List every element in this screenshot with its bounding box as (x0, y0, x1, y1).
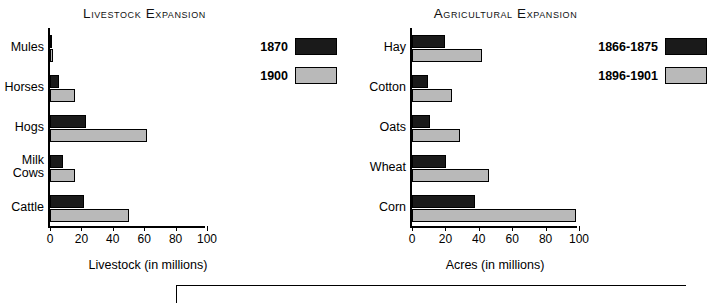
bar-agriculture-1 (412, 169, 489, 182)
legend-swatch-light (665, 67, 707, 84)
legend-label: 1900 (252, 69, 288, 83)
axis-tick-label: 0 (397, 232, 427, 246)
category-label: Hogs (0, 121, 44, 134)
bar-agriculture-1 (412, 89, 452, 102)
axis-tick (479, 226, 480, 231)
axis-tick (412, 226, 413, 231)
bar-livestock-1 (50, 89, 75, 102)
axis-tick (113, 226, 114, 231)
axis-tick-label: 40 (98, 232, 128, 246)
legend-item: 1900 (252, 67, 337, 84)
agriculture-plot-area: HayCottonOatsWheatCorn020406080100 (410, 28, 577, 228)
bar-agriculture-0 (412, 195, 475, 208)
agriculture-axis-caption: Acres (in millions) (405, 258, 585, 272)
category-label: Corn (342, 201, 406, 214)
livestock-chart-panel: Livestock Expansion MulesHorsesHogsMilk … (0, 0, 345, 307)
category-label: Cotton (342, 81, 406, 94)
bar-livestock-0 (50, 75, 59, 88)
axis-tick-label: 0 (35, 232, 65, 246)
axis-tick-label: 20 (430, 232, 460, 246)
axis-tick (546, 226, 547, 231)
footer-rule (176, 285, 686, 286)
legend-swatch-light (295, 67, 337, 84)
legend-label: 1896-1901 (590, 69, 658, 83)
axis-tick-label: 60 (497, 232, 527, 246)
bar-agriculture-0 (412, 115, 430, 128)
category-label: Hay (342, 41, 406, 54)
axis-tick (176, 226, 177, 231)
axis-tick-label: 20 (66, 232, 96, 246)
category-label: Horses (0, 81, 44, 94)
bar-agriculture-0 (412, 35, 445, 48)
category-label: Milk Cows (0, 154, 44, 180)
bar-livestock-1 (50, 49, 53, 62)
bar-livestock-0 (50, 115, 86, 128)
category-label: Oats (342, 121, 406, 134)
bar-agriculture-1 (412, 129, 460, 142)
bar-agriculture-0 (412, 75, 428, 88)
axis-tick-label: 100 (564, 232, 594, 246)
axis-tick-label: 40 (464, 232, 494, 246)
legend-item: 1896-1901 (590, 67, 707, 84)
axis-tick (512, 226, 513, 231)
axis-tick-label: 100 (192, 232, 222, 246)
axis-tick (207, 226, 208, 231)
legend-label: 1866-1875 (590, 40, 658, 54)
axis-tick-label: 80 (531, 232, 561, 246)
footer-rule-tick (176, 285, 177, 303)
category-label: Mules (0, 41, 44, 54)
bar-livestock-1 (50, 209, 129, 222)
axis-tick-label: 60 (129, 232, 159, 246)
bar-livestock-0 (50, 195, 84, 208)
livestock-plot-area: MulesHorsesHogsMilk CowsCattle0204060801… (48, 28, 205, 228)
bar-livestock-1 (50, 169, 75, 182)
livestock-legend: 1870 1900 (252, 38, 337, 96)
livestock-chart-title: Livestock Expansion (0, 6, 317, 21)
livestock-axis-caption: Livestock (in millions) (48, 258, 248, 272)
bar-agriculture-1 (412, 49, 482, 62)
bar-livestock-1 (50, 129, 147, 142)
legend-label: 1870 (252, 40, 288, 54)
bar-agriculture-1 (412, 209, 576, 222)
bar-livestock-0 (50, 155, 63, 168)
axis-tick (579, 226, 580, 231)
legend-item: 1870 (252, 38, 337, 55)
axis-tick (144, 226, 145, 231)
axis-tick (50, 226, 51, 231)
axis-tick (81, 226, 82, 231)
category-label: Wheat (342, 161, 406, 174)
agriculture-legend: 1866-1875 1896-1901 (590, 38, 707, 96)
agriculture-chart-title: Agricultural Expansion (333, 6, 678, 21)
axis-tick-label: 80 (161, 232, 191, 246)
axis-tick (445, 226, 446, 231)
legend-swatch-dark (295, 38, 337, 55)
category-label: Cattle (0, 201, 44, 214)
bar-livestock-0 (50, 35, 52, 48)
legend-item: 1866-1875 (590, 38, 707, 55)
legend-swatch-dark (665, 38, 707, 55)
bar-agriculture-0 (412, 155, 446, 168)
